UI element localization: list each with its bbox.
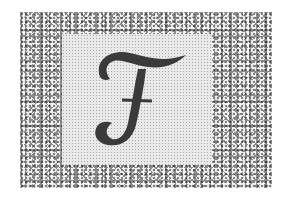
- drop-cap-letter: F: [62, 34, 212, 165]
- stippled-letter-panel: F: [62, 34, 212, 165]
